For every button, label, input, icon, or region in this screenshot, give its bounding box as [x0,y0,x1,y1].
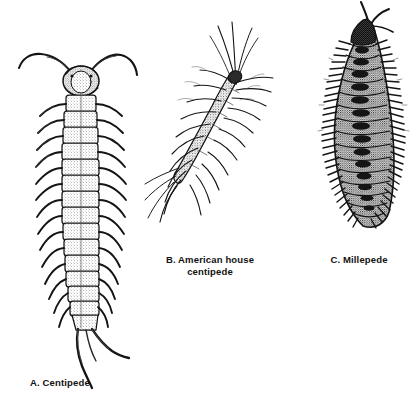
house-centipede-figure [140,18,275,248]
house-centipede-icon [140,18,275,248]
millepede-icon [305,0,415,250]
centipede-icon [8,38,148,353]
millepede-figure [305,0,415,250]
caption-house-centipede: B. American house centipede [140,254,280,278]
centipede-figure [8,38,148,353]
illustration-plate: A. Centipede [0,0,420,397]
caption-millepede: C. Millepede [312,254,406,266]
caption-centipede: A. Centipede [30,377,90,389]
